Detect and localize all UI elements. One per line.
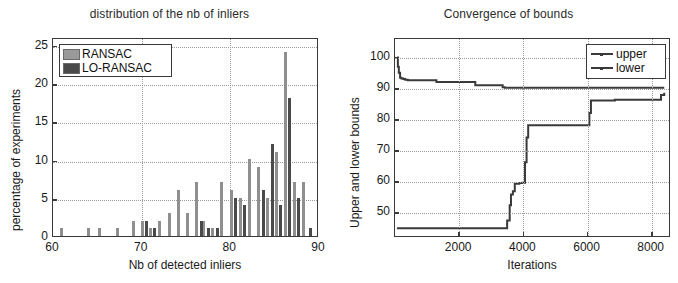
histogram-bar xyxy=(302,182,305,236)
histogram-bar xyxy=(168,213,171,236)
y-tick-label: 15 xyxy=(28,114,48,128)
y-tick xyxy=(395,181,399,183)
histogram-bar xyxy=(293,182,296,236)
x-tick-label: 60 xyxy=(22,240,82,254)
legend-label-upper: upper xyxy=(616,48,647,60)
y-tick-label: 5 xyxy=(28,191,48,205)
histogram-bar xyxy=(257,167,260,236)
chart-panel-histogram: distribution of the nb of inliers percen… xyxy=(0,0,339,283)
legend-label-lo-ransac: LO-RANSAC xyxy=(82,62,152,74)
histogram-bar xyxy=(177,190,180,236)
x-axis-title-convergence: Iterations xyxy=(394,258,670,272)
x-tick xyxy=(458,232,460,236)
histogram-bar xyxy=(116,228,119,236)
histogram-bar xyxy=(220,182,223,236)
x-tick xyxy=(651,232,653,236)
legend-entry-lower[interactable]: lower xyxy=(591,61,660,75)
gridline-horizontal xyxy=(53,85,317,86)
histogram-bar xyxy=(186,213,189,236)
x-tick-label: 8000 xyxy=(621,240,678,254)
gridline-horizontal xyxy=(395,120,669,121)
histogram-bar xyxy=(248,159,251,236)
y-tick-label: 50 xyxy=(364,204,390,218)
chart-title-convergence: Convergence of bounds xyxy=(339,7,678,21)
chart-title-histogram: distribution of the nb of inliers xyxy=(0,7,339,21)
legend-convergence[interactable]: upper lower xyxy=(586,44,666,79)
x-tick-label: 70 xyxy=(111,240,171,254)
histogram-bar xyxy=(279,205,282,236)
y-tick xyxy=(53,46,57,48)
y-axis-title-convergence: Upper and lower bounds xyxy=(348,97,362,228)
legend-label-ransac: RANSAC xyxy=(82,48,132,60)
gridline-vertical xyxy=(523,39,524,236)
histogram-bar xyxy=(153,228,156,236)
y-tick xyxy=(53,84,57,86)
histogram-bar xyxy=(243,205,246,236)
histogram-bar xyxy=(87,228,90,236)
gridline-vertical xyxy=(459,39,460,236)
y-tick-label: 90 xyxy=(364,80,390,94)
gridline-horizontal xyxy=(395,151,669,152)
histogram-bar xyxy=(309,228,312,236)
y-tick xyxy=(395,88,399,90)
y-tick xyxy=(395,57,399,59)
y-tick xyxy=(395,212,399,214)
x-tick-label: 2000 xyxy=(428,240,488,254)
x-tick-label: 6000 xyxy=(557,240,617,254)
histogram-bar xyxy=(230,190,233,236)
histogram-bar xyxy=(284,52,287,236)
x-tick-label: 80 xyxy=(199,240,259,254)
gridline-horizontal xyxy=(395,213,669,214)
legend-entry-ransac[interactable]: RANSAC xyxy=(63,47,167,61)
histogram-bar xyxy=(288,98,291,236)
y-tick xyxy=(53,161,57,163)
histogram-bar xyxy=(211,228,214,236)
y-tick-label: 60 xyxy=(364,173,390,187)
y-tick xyxy=(53,122,57,124)
histogram-bar xyxy=(239,198,242,236)
y-tick-label: 100 xyxy=(364,49,390,63)
y-tick-label: 10 xyxy=(28,153,48,167)
figure-page: distribution of the nb of inliers percen… xyxy=(0,0,678,283)
histogram-bar xyxy=(132,221,135,236)
legend-histogram[interactable]: RANSAC LO-RANSAC xyxy=(59,44,172,77)
y-tick-label: 25 xyxy=(28,38,48,52)
legend-line-lower xyxy=(591,67,613,69)
chart-panel-convergence: Convergence of bounds Upper and lower bo… xyxy=(339,0,678,283)
histogram-bar xyxy=(60,228,63,236)
histogram-bar xyxy=(145,221,148,236)
histogram-bar xyxy=(158,221,161,236)
histogram-bar xyxy=(149,228,152,236)
histogram-bar xyxy=(297,198,300,236)
x-tick xyxy=(523,232,525,236)
y-tick-label: 70 xyxy=(364,142,390,156)
histogram-bar xyxy=(275,152,278,236)
histogram-bar xyxy=(266,198,269,236)
y-tick xyxy=(395,150,399,152)
legend-swatch-ransac xyxy=(63,49,80,60)
histogram-bar xyxy=(271,144,274,236)
y-tick-label: 80 xyxy=(364,111,390,125)
legend-entry-upper[interactable]: upper xyxy=(591,47,660,61)
y-tick xyxy=(53,199,57,201)
histogram-bar xyxy=(262,190,265,236)
legend-entry-lo-ransac[interactable]: LO-RANSAC xyxy=(63,61,167,75)
histogram-bar xyxy=(202,221,205,236)
histogram-bar xyxy=(207,228,210,236)
histogram-bar xyxy=(200,221,203,236)
histogram-bar xyxy=(234,198,237,236)
gridline-horizontal xyxy=(395,182,669,183)
y-axis-title-histogram: percentage of experiments xyxy=(9,89,23,231)
gridline-horizontal xyxy=(53,123,317,124)
histogram-bar xyxy=(98,228,101,236)
x-axis-title-histogram: Nb of detected inliers xyxy=(52,258,318,272)
x-tick-label: 4000 xyxy=(492,240,552,254)
y-tick xyxy=(395,119,399,121)
y-tick-label: 20 xyxy=(28,76,48,90)
gridline-horizontal xyxy=(395,89,669,90)
histogram-bar xyxy=(216,228,219,236)
legend-line-upper xyxy=(591,53,613,55)
bounds-curve-lower xyxy=(397,93,664,228)
legend-swatch-lo-ransac xyxy=(63,63,80,74)
legend-label-lower: lower xyxy=(616,62,645,74)
